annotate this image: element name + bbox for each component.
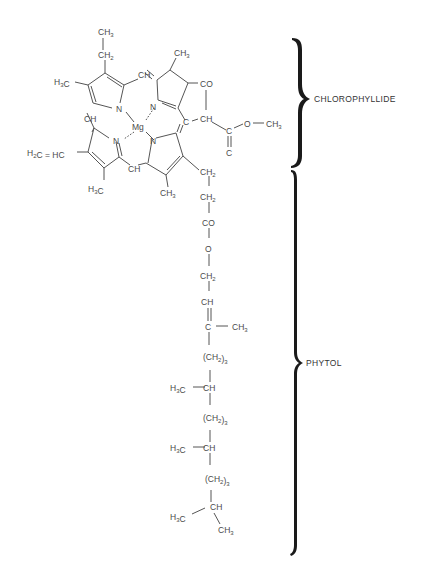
bond (212, 122, 226, 130)
bond (166, 156, 183, 175)
bond (192, 508, 205, 514)
phytol-atom: CH2 (200, 271, 216, 282)
bond (94, 128, 109, 138)
phytol-atom: (CH2)3 (203, 352, 228, 365)
bond (156, 133, 176, 138)
phytol-atom: (CH2)3 (205, 474, 230, 487)
phytol-atom: H3C (170, 443, 186, 455)
phytol-atom: CH (203, 383, 215, 393)
brace-shape (291, 38, 310, 168)
bond (157, 70, 170, 80)
bond (170, 58, 176, 70)
bond (234, 124, 243, 128)
bond (157, 80, 158, 100)
phytol-brace (290, 170, 303, 556)
atom-label: CH (200, 114, 212, 124)
chlorophyllide-brace (291, 38, 310, 168)
bond (75, 82, 88, 85)
atom-label: H3C (54, 77, 70, 89)
bond (120, 85, 124, 103)
atom-label: CH2 (200, 192, 216, 203)
bond (124, 79, 138, 85)
atom-label: CH3 (266, 119, 282, 130)
coordination-bond (124, 132, 134, 139)
atom-label: N (150, 136, 156, 146)
bond (105, 73, 124, 85)
atom-label: CH (138, 70, 150, 80)
bond (93, 103, 112, 108)
bond (88, 73, 105, 85)
bond (104, 157, 119, 168)
bond (88, 85, 93, 103)
atom-label: C (226, 126, 232, 136)
bond (176, 133, 183, 156)
atom-label: CH3 (174, 48, 190, 59)
bond (214, 513, 220, 524)
atom-label: O (205, 244, 212, 254)
atom-label: C (183, 117, 189, 127)
phytol-atom: CH3 (218, 525, 234, 536)
bond (170, 70, 188, 83)
porphyrin-bonds (75, 38, 264, 187)
atom-label: CH3 (98, 27, 114, 38)
bond (146, 163, 166, 175)
brace-shape (290, 170, 303, 556)
phytol-atom: H3C (170, 383, 186, 395)
phytol-atom: H3C (170, 512, 186, 524)
atom-label: CH (128, 164, 140, 174)
atom-label: H2C = HC (27, 148, 65, 160)
bond (88, 128, 94, 152)
phytol-atom: CH3 (232, 322, 248, 333)
bond (119, 143, 122, 156)
atom-label: H3C (88, 184, 104, 196)
phytol-atom: CH (210, 502, 222, 512)
phytol-atom: CH (203, 443, 215, 453)
bond (178, 83, 188, 108)
phytol-atom: (CH2)3 (203, 413, 228, 426)
atom-label: CH (84, 114, 96, 124)
atom-label: CO (202, 218, 215, 228)
chain-bonds (192, 176, 228, 524)
atom-label: CH2 (98, 50, 114, 61)
chlorophyllide-label: CHLOROPHYLLIDE (314, 94, 396, 104)
atom-label: N (116, 104, 122, 114)
bond (166, 175, 168, 187)
atom-label: N (113, 136, 119, 146)
phytol-label: PHYTOL (306, 358, 342, 368)
atom-label: CH3 (160, 188, 176, 199)
bond (183, 156, 199, 170)
atom-labels: CH3 CH2 H3C N CH CH CH3 N Mg CO CH C C O… (27, 27, 282, 536)
bond (177, 124, 180, 132)
bond (88, 152, 104, 168)
bond (192, 119, 198, 121)
atom-label: C (226, 148, 232, 158)
atom-label: O (244, 119, 251, 129)
bond (167, 156, 180, 170)
central-metal-label: Mg (132, 122, 144, 132)
atom-label: N (150, 102, 156, 112)
phytol-atom: C (205, 322, 211, 332)
phytol-atom: CH (201, 297, 213, 307)
chlorophyll-structure-diagram: CH3 CH2 H3C N CH CH CH3 N Mg CO CH C C O… (0, 0, 424, 573)
atom-label: CH2 (200, 167, 216, 178)
bond (126, 112, 134, 122)
atom-label: CO (200, 79, 213, 89)
